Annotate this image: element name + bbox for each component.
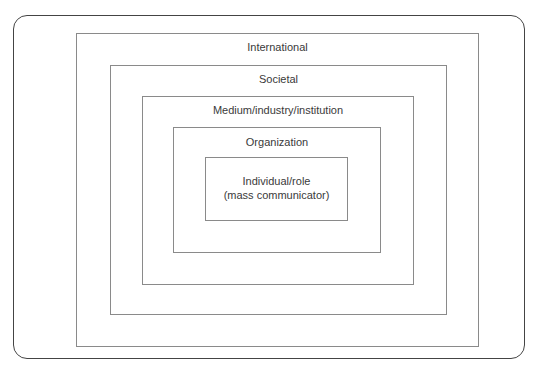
level-individual-role: Individual/role (mass communicator) [205,157,348,221]
level-label: Medium/industry/institution [143,104,413,116]
level-label-line2: (mass communicator) [206,188,347,202]
level-label: Societal [111,73,446,85]
level-label: Organization [174,136,380,148]
level-label-line1: Individual/role [206,174,347,188]
level-label: International [77,41,478,53]
level-label: Individual/role (mass communicator) [206,174,347,202]
